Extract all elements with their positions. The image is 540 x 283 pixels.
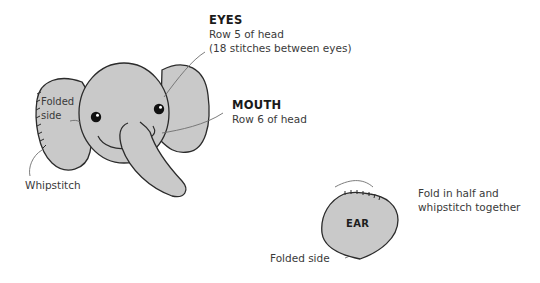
mouth-heading: MOUTH [232, 98, 307, 112]
whipstitch-leader [30, 150, 43, 176]
fold-in-half-text: Fold in half and [418, 186, 520, 200]
folded-text: Folded [41, 95, 74, 109]
eyes-annotation: EYES Row 5 of head (18 stitches between … [209, 13, 352, 55]
eyes-row-text: Row 5 of head [209, 27, 352, 41]
whipstitch-text: Whipstitch [25, 179, 81, 191]
eyes-stitches-text: (18 stitches between eyes) [209, 41, 352, 55]
whipstitch-annotation: Whipstitch [25, 178, 81, 192]
ear-folded-side-text: Folded side [270, 252, 330, 264]
side-text: side [41, 109, 74, 123]
left-eye [91, 112, 101, 122]
folded-side-head-annotation: Folded side [41, 95, 74, 123]
ear-folded-side-annotation: Folded side [270, 251, 330, 265]
mouth-annotation: MOUTH Row 6 of head [232, 98, 307, 126]
right-eye [154, 104, 164, 114]
eyes-heading: EYES [209, 13, 352, 27]
whipstitch-together-text: whipstitch together [418, 200, 520, 214]
ear-label: EAR [346, 218, 369, 229]
ear-fold-leader [335, 181, 373, 187]
elephant-head-diagram: EYES Row 5 of head (18 stitches between … [0, 0, 540, 283]
ear-fold-annotation: Fold in half and whipstitch together [418, 186, 520, 214]
mouth-row-text: Row 6 of head [232, 112, 307, 126]
